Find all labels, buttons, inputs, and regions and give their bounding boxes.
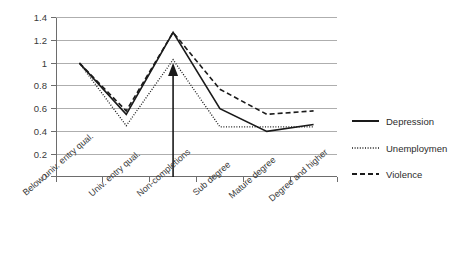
legend-label-violence: Violence xyxy=(386,169,422,180)
y-tick-label-0.8: 0.8 xyxy=(34,80,47,91)
y-tick-label-0.6: 0.6 xyxy=(34,103,47,114)
line-chart: 1.4 1.2 1 0.8 0.6 0.4 0.2 0 Below univ. … xyxy=(0,0,464,273)
y-tick-label-0.2: 0.2 xyxy=(34,149,47,160)
y-tick-label-1.4: 1.4 xyxy=(34,12,47,23)
legend-label-depression: Depression xyxy=(386,116,434,127)
y-tick-label-0.4: 0.4 xyxy=(34,126,47,137)
y-tick-label-1.0: 1 xyxy=(42,58,47,69)
legend-label-unemployment: Unemploymen xyxy=(386,143,447,154)
chart-background xyxy=(0,0,464,273)
y-tick-label-1.2: 1.2 xyxy=(34,35,47,46)
chart-canvas: 1.4 1.2 1 0.8 0.6 0.4 0.2 0 Below univ. … xyxy=(0,0,464,273)
